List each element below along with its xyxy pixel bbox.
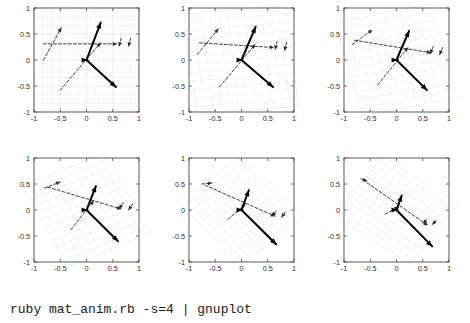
dashed-vector-d3 [219, 44, 255, 87]
x-tick-label: 1 [292, 114, 296, 123]
x-tick-label: 0 [240, 264, 244, 273]
x-tick-label: -0.5 [54, 264, 66, 273]
dashed-vector-d2 [205, 185, 275, 216]
plot-panel-1: -1-0.500.5110.50-0.5-1 [0, 0, 155, 148]
y-tick-label: 1 [26, 154, 30, 163]
y-tick-label: 0 [181, 56, 185, 65]
y-tick-label: 0 [181, 206, 185, 215]
x-tick-label: -0.5 [54, 114, 66, 123]
x-tick-label: 0 [85, 264, 89, 273]
x-tick-label: 1 [447, 114, 451, 123]
y-tick-label: -1 [334, 258, 340, 267]
x-tick-label: 1 [292, 264, 296, 273]
y-tick-label: -0.5 [18, 232, 30, 241]
x-tick-label: -0.5 [364, 114, 376, 123]
x-tick-label: 0.5 [108, 264, 118, 273]
arrow-head [119, 204, 123, 209]
y-tick-label: 0.5 [20, 180, 30, 189]
x-tick-label: -1 [186, 264, 192, 273]
plot-panel-6: -1-0.500.5110.50-0.5-1 [310, 150, 465, 298]
y-tick-label: 0 [336, 56, 340, 65]
y-tick-label: 0 [336, 206, 340, 215]
x-tick-label: 0.5 [108, 114, 118, 123]
x-tick-label: 1 [447, 264, 451, 273]
y-tick-label: 1 [181, 4, 185, 13]
x-tick-label: 0.5 [263, 114, 273, 123]
x-tick-label: -0.5 [209, 264, 221, 273]
x-tick-label: 0.5 [418, 264, 428, 273]
solid-vector-v2 [242, 60, 274, 87]
solid-vector-v1 [87, 23, 101, 60]
x-tick-label: 1 [137, 114, 141, 123]
y-tick-label: -1 [179, 258, 185, 267]
x-tick-label: -0.5 [209, 114, 221, 123]
x-tick-label: -1 [31, 264, 37, 273]
solid-vector-v2 [87, 210, 119, 241]
arrow-head [96, 23, 101, 30]
y-tick-label: 0 [26, 56, 30, 65]
x-tick-label: 0.5 [418, 114, 428, 123]
x-tick-label: -1 [31, 114, 37, 123]
y-tick-label: 0 [26, 206, 30, 215]
solid-vector-v2 [397, 60, 427, 90]
y-tick-label: 1 [336, 154, 340, 163]
y-tick-label: 0.5 [330, 30, 340, 39]
y-tick-label: -1 [334, 108, 340, 117]
dashed-vector-d2 [200, 43, 275, 48]
y-tick-label: -0.5 [173, 82, 185, 91]
solid-vectors-4 [82, 186, 118, 241]
y-tick-label: -1 [24, 108, 30, 117]
x-tick-label: 0.5 [263, 264, 273, 273]
arrow-head [397, 195, 402, 202]
solid-vector-v2 [242, 210, 277, 244]
solid-vectors-2 [237, 27, 273, 87]
x-tick-label: 0 [85, 114, 89, 123]
y-tick-label: 0.5 [20, 30, 30, 39]
x-tick-label: 1 [137, 264, 141, 273]
x-tick-label: -0.5 [364, 264, 376, 273]
plot-panel-3: -1-0.500.5110.50-0.5-1 [310, 0, 465, 148]
y-tick-label: -1 [179, 108, 185, 117]
figure-grid: -1-0.500.5110.50-0.5-1-1-0.500.5110.50-0… [0, 0, 470, 296]
y-tick-label: 1 [26, 4, 30, 13]
y-tick-label: 0.5 [175, 30, 185, 39]
dashed-vector-d1 [197, 29, 218, 54]
x-tick-label: 0 [240, 114, 244, 123]
arrow-head [284, 46, 288, 51]
y-tick-label: -0.5 [18, 82, 30, 91]
x-tick-label: -1 [341, 114, 347, 123]
solid-vectors-3 [392, 31, 427, 90]
caption: ruby mat_anim.rb -s=4 | gnuplot [0, 296, 470, 323]
arrow-head [244, 190, 249, 197]
solid-vectors-5 [237, 190, 277, 244]
y-tick-label: 0.5 [330, 180, 340, 189]
arrow-head [270, 45, 274, 49]
arrow-head [129, 205, 133, 210]
y-tick-label: 1 [336, 4, 340, 13]
y-tick-label: -0.5 [328, 232, 340, 241]
y-tick-label: 0.5 [175, 180, 185, 189]
x-tick-label: -1 [341, 264, 347, 273]
x-tick-label: 0 [395, 114, 399, 123]
y-tick-label: 1 [181, 154, 185, 163]
y-tick-label: -0.5 [173, 232, 185, 241]
y-tick-label: -0.5 [328, 82, 340, 91]
plot-panel-4: -1-0.500.5110.50-0.5-1 [0, 150, 155, 298]
x-tick-label: -1 [186, 114, 192, 123]
arrow-head [274, 45, 278, 50]
caption-command: ruby mat_anim.rb -s=4 | gnuplot [0, 302, 252, 317]
arrow-head [439, 50, 443, 55]
x-tick-label: 0 [395, 264, 399, 273]
y-tick-label: -1 [24, 258, 30, 267]
plot-panel-2: -1-0.500.5110.50-0.5-1 [155, 0, 310, 148]
plot-panel-5: -1-0.500.5110.50-0.5-1 [155, 150, 310, 298]
solid-vectors-6 [392, 195, 433, 246]
